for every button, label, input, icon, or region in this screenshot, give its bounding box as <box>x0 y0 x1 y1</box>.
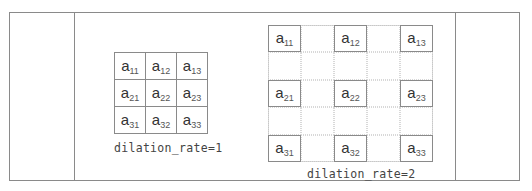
kernel-row: a21a22a23 <box>115 80 208 107</box>
kernel-cell-value: a33 <box>407 139 425 158</box>
kernel-grid-dilation-2: a11a12a13a21a22a23a31a32a33 <box>268 25 433 162</box>
dilated-gap-cell <box>268 107 301 134</box>
dilated-gap-cell <box>367 107 400 134</box>
kernel-row: a31a32a33 <box>115 107 208 134</box>
kernel-cell-value: a12 <box>341 29 359 48</box>
kernel-cell-value: a21 <box>121 84 139 101</box>
kernel-cell-value: a32 <box>341 139 359 158</box>
kernel-cell: a22 <box>146 80 177 107</box>
dilated-kernel-cell: a32 <box>334 135 367 162</box>
dilated-gap-cell <box>367 25 400 52</box>
kernel-cell-value: a22 <box>152 84 170 101</box>
kernel-cell-value: a32 <box>152 111 170 128</box>
kernel-row: a11a12a13 <box>115 53 208 80</box>
kernel-cell: a13 <box>177 53 208 80</box>
kernel-cell-value: a13 <box>407 29 425 48</box>
dilated-gap-cell <box>301 25 334 52</box>
kernel-cell-value: a33 <box>183 111 201 128</box>
dilated-kernel-cell: a33 <box>400 135 433 162</box>
kernel-cell-value: a22 <box>341 84 359 103</box>
diagram-table-frame <box>9 12 520 181</box>
kernel-cell-value: a31 <box>275 139 293 158</box>
kernel-cell: a21 <box>115 80 146 107</box>
kernel-cell-value: a21 <box>275 84 293 103</box>
kernel-cell: a12 <box>146 53 177 80</box>
dilated-gap-cell <box>301 52 334 79</box>
kernel-cell-value: a13 <box>183 57 201 74</box>
column-divider-left <box>74 12 75 181</box>
dilated-gap-cell <box>400 107 433 134</box>
dilated-kernel-cell: a11 <box>268 25 301 52</box>
kernel-cell: a11 <box>115 53 146 80</box>
kernel-cell: a32 <box>146 107 177 134</box>
kernel-cell: a23 <box>177 80 208 107</box>
kernel-cell: a31 <box>115 107 146 134</box>
dilated-gap-cell <box>367 135 400 162</box>
dilated-gap-cell <box>334 52 367 79</box>
kernel-cell-value: a11 <box>276 29 294 48</box>
dilated-gap-cell <box>367 52 400 79</box>
dilated-kernel-cell: a23 <box>400 80 433 107</box>
dilation-rate-1-label: dilation_rate=1 <box>114 141 222 155</box>
kernel-cell-value: a23 <box>407 84 425 103</box>
kernel-cell: a33 <box>177 107 208 134</box>
dilated-gap-cell <box>367 80 400 107</box>
dilation-rate-2-label: dilation_rate=2 <box>307 167 415 181</box>
dilated-kernel-cell: a31 <box>268 135 301 162</box>
dilated-kernel-cell: a21 <box>268 80 301 107</box>
kernel-cell-value: a23 <box>183 84 201 101</box>
dilated-gap-cell <box>301 80 334 107</box>
dilated-gap-cell <box>301 135 334 162</box>
dilated-gap-cell <box>334 107 367 134</box>
kernel-cell-value: a11 <box>121 57 139 74</box>
dilated-gap-cell <box>301 107 334 134</box>
dilated-kernel-cell: a12 <box>334 25 367 52</box>
kernel-cell-value: a12 <box>152 57 170 74</box>
dilated-gap-cell <box>268 52 301 79</box>
kernel-cell-value: a31 <box>121 111 139 128</box>
column-divider-right <box>455 12 456 181</box>
kernel-grid-dilation-1: a11a12a13a21a22a23a31a32a33 <box>114 52 208 134</box>
dilated-gap-cell <box>400 52 433 79</box>
dilated-kernel-cell: a22 <box>334 80 367 107</box>
dilated-kernel-cell: a13 <box>400 25 433 52</box>
